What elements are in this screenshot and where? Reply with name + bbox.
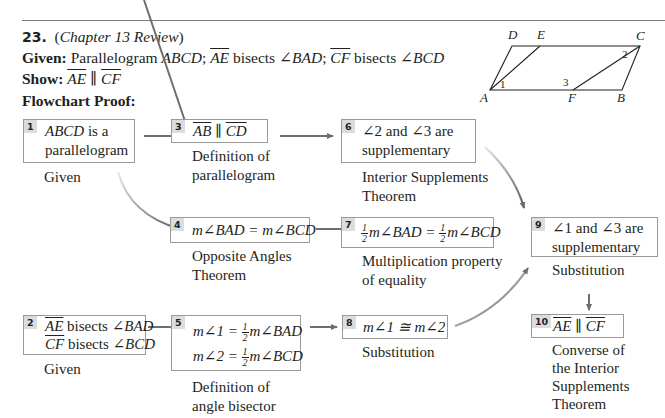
- step-1-reason: Given: [44, 168, 81, 187]
- step-number-8: 8: [343, 316, 356, 329]
- step-5-reason: Definition ofangle bisector: [192, 378, 276, 416]
- step-box-10: 10 AE ∥ CF: [531, 314, 624, 338]
- arrow-6-to-9: [485, 147, 524, 208]
- step-9-reason: Substitution: [552, 261, 625, 280]
- step-number-9: 9: [532, 218, 545, 231]
- step-10-statement: AE ∥ CF: [553, 317, 605, 336]
- step-4-statement: m∠BAD = m∠BCD: [192, 221, 316, 240]
- step-6-reason: Interior SupplementsTheorem: [362, 168, 488, 206]
- step-box-6: 6 ∠2 and ∠3 aresupplementary: [341, 119, 476, 163]
- step-box-1: 1 ABCD is a parallelogram: [23, 119, 135, 163]
- step-number-6: 6: [342, 120, 355, 133]
- step-number-2: 2: [24, 316, 37, 329]
- step-8-statement: m∠1 ≅ m∠2: [363, 318, 445, 337]
- step-5-statement: m∠1 = 12m∠BAD m∠2 = 12m∠BCD: [193, 319, 303, 369]
- step-box-5: 5 m∠1 = 12m∠BAD m∠2 = 12m∠BCD: [171, 315, 301, 371]
- step-10-reason: Converse ofthe InteriorSupplementsTheore…: [552, 341, 630, 413]
- step-number-7: 7: [342, 218, 355, 231]
- step-2-reason: Given: [44, 360, 81, 379]
- step-box-9: 9 ∠1 and ∠3 aresupplementary: [531, 217, 658, 257]
- step-box-3: 3 AB ∥ CD: [171, 119, 268, 143]
- step-box-7: 7 12m∠BAD = 12m∠BCD: [341, 217, 494, 248]
- step-number-1: 1: [24, 120, 37, 133]
- step-3-statement: AB ∥ CD: [193, 122, 247, 141]
- step-7-reason: Multiplication propertyof equality: [362, 252, 502, 290]
- step-box-4: 4 m∠BAD = m∠BCD: [170, 217, 310, 243]
- step-7-statement: 12m∠BAD = 12m∠BCD: [361, 223, 501, 244]
- step-number-5: 5: [172, 316, 185, 329]
- step-box-2: 2 AE bisects ∠BAD CF bisects ∠BCD: [23, 315, 146, 355]
- step-9-statement: ∠1 and ∠3 aresupplementary: [552, 219, 643, 257]
- step-number-10: 10: [532, 315, 551, 328]
- step-box-8: 8 m∠1 ≅ m∠2: [342, 315, 448, 339]
- step-2-statement: AE bisects ∠BAD CF bisects ∠BCD: [45, 317, 155, 353]
- step-8-reason: Substitution: [362, 343, 435, 362]
- step-1-statement: ABCD is a parallelogram: [45, 122, 128, 160]
- step-number-4: 4: [171, 218, 184, 231]
- step-3-reason: Definition ofparallelogram: [192, 147, 275, 185]
- step-6-statement: ∠2 and ∠3 aresupplementary: [362, 122, 453, 160]
- arrow-1-to-3: [144, 0, 190, 136]
- step-4-reason: Opposite AnglesTheorem: [192, 247, 292, 285]
- step-number-3: 3: [172, 120, 185, 133]
